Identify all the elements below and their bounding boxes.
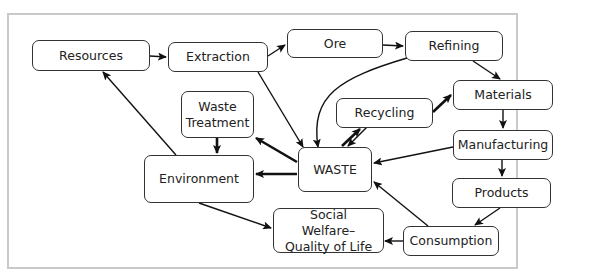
node-label: Refining <box>429 38 480 54</box>
edge-extraction-ore <box>268 45 285 56</box>
edge-ore-refining <box>383 45 403 46</box>
node-resources: Resources <box>32 40 150 71</box>
node-label: Social Welfare–Quality of Life <box>282 207 375 255</box>
node-label: Waste Treatment <box>186 99 250 131</box>
node-label: WASTE <box>313 162 357 178</box>
node-label: Consumption <box>410 233 493 249</box>
edge-products-consumption <box>475 208 500 225</box>
node-ore: Ore <box>287 29 383 58</box>
node-label: Environment <box>159 171 239 187</box>
edge-refining-materials <box>473 61 500 79</box>
node-materials: Materials <box>453 80 553 110</box>
node-label: Recycling <box>355 105 415 121</box>
edge-waste-waste-treatment <box>256 138 297 162</box>
node-manufacturing: Manufacturing <box>453 130 553 160</box>
edge-environment-resources <box>103 72 176 155</box>
edge-manufacturing-waste <box>374 147 453 163</box>
edge-recycling-materials <box>433 95 451 112</box>
node-label: Materials <box>474 87 531 103</box>
edge-extraction-waste <box>258 72 303 147</box>
node-label: Resources <box>59 48 123 64</box>
edge-environment-social-welfare <box>199 203 271 228</box>
node-consumption: Consumption <box>403 226 499 256</box>
edge-resources-extraction <box>150 56 166 57</box>
node-environment: Environment <box>144 155 254 203</box>
node-refining: Refining <box>405 31 503 61</box>
node-extraction: Extraction <box>168 42 268 72</box>
node-label: Extraction <box>186 49 250 65</box>
node-recycling: Recycling <box>336 98 433 128</box>
node-social-welfare: Social Welfare–Quality of Life <box>273 208 384 253</box>
node-waste: WASTE <box>298 147 372 192</box>
node-products: Products <box>452 178 551 208</box>
node-label: Products <box>475 185 529 201</box>
node-label: Ore <box>324 36 346 52</box>
node-waste-treatment: Waste Treatment <box>181 91 254 138</box>
node-label: Manufacturing <box>458 137 549 153</box>
